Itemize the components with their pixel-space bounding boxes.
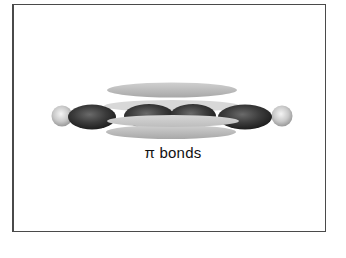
hydrogen-atom-right (272, 106, 293, 127)
pi-lobe-top (107, 83, 237, 98)
sigma-lobe-4 (218, 105, 272, 130)
pi-lobe-back (104, 100, 240, 112)
pi-bond-molecule-diagram (0, 0, 346, 258)
pi-lobe-bottom (106, 125, 236, 139)
sigma-lobe-1 (68, 105, 116, 130)
pi-bonds-caption: π bonds (0, 144, 346, 161)
pi-lobe-middle (107, 115, 239, 127)
